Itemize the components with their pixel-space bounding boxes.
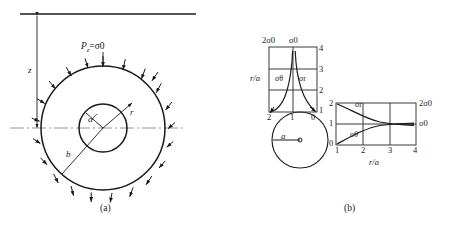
- outer-radius-label-b: b: [66, 150, 71, 159]
- pressure-value: σ0: [95, 41, 105, 51]
- inner-radius-label-a: a: [88, 115, 93, 124]
- pressure-label: Pz=σ0: [81, 42, 105, 53]
- left-plot-ytick-4: 4: [319, 44, 323, 53]
- pressure-arrows: [32, 56, 175, 203]
- figure-canvas: z Pz=σ0 a b r (a) 2σ0 σ0 r/a 4 3 2 1 2 1…: [0, 0, 449, 229]
- left-plot-top-label-2sigma0: 2σ0: [262, 36, 275, 45]
- right-plot-xtick-3: 3: [388, 146, 392, 155]
- caption-a: (a): [100, 204, 111, 214]
- right-plot-right-label-sigma0: σ0: [419, 119, 428, 128]
- right-plot-curve-label-sigma-r: σr: [355, 101, 362, 109]
- depth-label-z: z: [28, 66, 32, 75]
- left-plot-curve-label-sigma-r: σr: [299, 75, 306, 83]
- right-curve-sigma-r: [337, 104, 414, 126]
- left-plot-xtick-2: 2: [267, 113, 271, 122]
- left-plot-xtick-1: 1: [290, 113, 294, 122]
- left-plot-xtick-0: 0: [311, 113, 315, 122]
- right-plot-xtick-4: 4: [413, 146, 417, 155]
- left-plot-ytick-1: 1: [319, 106, 323, 115]
- right-plot-curve-label-sigma-theta: σθ: [350, 131, 358, 139]
- right-plot-axis-label: r/a: [369, 158, 379, 167]
- left-plot-ytick-2: 2: [319, 86, 323, 95]
- right-plot-right-label-2sigma0: 2σ0: [419, 99, 432, 108]
- panel-b-graphics: [269, 47, 416, 168]
- radius-r-line: [103, 103, 132, 128]
- right-plot-xtick-1: 1: [335, 146, 339, 155]
- right-plot-ytick-1: 1: [329, 119, 333, 128]
- left-plot-curve-label-sigma-theta: σθ: [275, 75, 283, 83]
- right-plot-ytick-2: 2: [329, 99, 333, 108]
- left-plot-top-label-sigma0: σ0: [289, 36, 298, 45]
- right-curve-sigma-theta: [337, 123, 414, 144]
- right-plot-ytick-0: 0: [329, 139, 333, 148]
- right-plot-xtick-2: 2: [361, 146, 365, 155]
- caption-b: (b): [344, 204, 355, 214]
- radial-label-r: r: [130, 108, 134, 117]
- hole-radius-label-a: a: [281, 132, 286, 141]
- figure-svg: [0, 0, 449, 229]
- left-plot-ytick-3: 3: [319, 65, 323, 74]
- left-plot-axis-label: r/a: [250, 74, 260, 83]
